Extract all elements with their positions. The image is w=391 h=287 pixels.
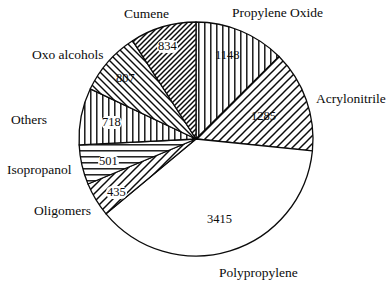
slice-category-label: Isopropanol — [7, 163, 72, 177]
slice-value-label: 501 — [98, 155, 119, 168]
slice-value-label: 834 — [157, 40, 178, 53]
pie-chart-canvas — [0, 0, 391, 287]
slice-category-label: Polypropylene — [219, 266, 298, 280]
slice-category-label: Propylene Oxide — [232, 6, 323, 20]
pie-chart-figure: Propylene Oxide1148Acrylonitrile1285Poly… — [0, 0, 391, 287]
slice-category-label: Oligomers — [34, 204, 91, 218]
slice-category-label: Others — [11, 113, 47, 127]
slice-value-label: 435 — [106, 186, 127, 199]
pie-slices — [79, 22, 313, 256]
slice-category-label: Oxo alcohols — [32, 48, 104, 62]
slice-category-label: Acrylonitrile — [316, 92, 386, 106]
slice-value-label: 3415 — [207, 213, 232, 226]
slice-category-label: Cumene — [124, 7, 169, 21]
slice-value-label: 1148 — [215, 49, 240, 62]
slice-value-label: 1285 — [251, 110, 276, 123]
slice-value-label: 807 — [116, 72, 135, 85]
slice-value-label: 718 — [101, 116, 122, 129]
